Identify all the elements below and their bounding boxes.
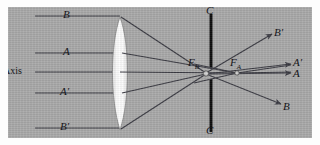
focal-point-fa [235,71,239,75]
refracted-ray-a-prime [122,74,206,93]
label-focus-fa-letter: F [230,56,237,68]
label-focus-fb-letter: F [188,56,195,68]
label-focus-fa-sub: A [237,63,241,71]
label-image-b-prime: B′ [274,27,283,38]
diagram-canvas [8,7,312,138]
focal-point-fb [203,71,208,76]
label-focus-fb-sub: B [195,63,199,71]
converging-lens [113,17,128,130]
label-axis: Axis [8,66,22,76]
label-object-b-prime: B′ [60,121,69,132]
label-image-a: A [293,68,300,79]
label-focus-fb: FB [188,57,199,71]
label-screen-bottom: C [206,125,213,136]
outgoing-ray-b [206,74,281,104]
label-focus-fa: FA [230,57,241,71]
refracted-ray-b-prime [121,74,206,129]
label-object-a-prime: A′ [60,86,69,97]
diagram-panel: B A Axis A′ B′ C C FB FA B′ A′ A B [8,7,312,138]
screen-upper-segment [210,14,213,68]
incoming-rays [35,16,120,128]
label-screen-top: C [206,7,213,16]
label-object-b: B [63,9,70,20]
label-object-a: A [63,46,70,57]
ray-diagram-figure: B A Axis A′ B′ C C FB FA B′ A′ A B [0,0,320,145]
outgoing-rays [194,34,291,104]
refracted-rays [120,17,237,129]
label-image-b: B [283,101,290,112]
